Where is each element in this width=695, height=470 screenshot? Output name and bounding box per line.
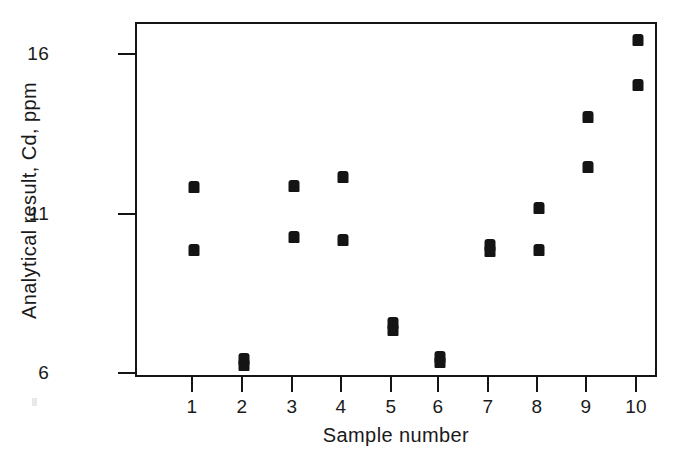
x-tick-label: 7 — [483, 396, 494, 418]
x-tick-mark — [437, 377, 439, 392]
scatter-plot-figure: Analytical result, Cd, ppm 16116 1234567… — [0, 0, 695, 470]
x-tick-mark — [585, 377, 587, 392]
x-axis-title-text: Sample number — [323, 424, 469, 446]
x-tick-label: 1 — [187, 396, 198, 418]
x-tick-mark — [191, 377, 193, 392]
x-tick-mark — [291, 377, 293, 392]
x-tick-label: 9 — [581, 396, 592, 418]
x-axis: 12345678910 — [0, 0, 695, 470]
x-tick-label: 2 — [237, 396, 248, 418]
scan-artifact-speck — [32, 398, 37, 406]
x-axis-title: Sample number — [135, 424, 657, 447]
x-tick-mark — [536, 377, 538, 392]
x-tick-mark — [241, 377, 243, 392]
x-tick-label: 6 — [433, 396, 444, 418]
x-tick-label: 8 — [532, 396, 543, 418]
x-tick-mark — [635, 377, 637, 392]
x-tick-mark — [340, 377, 342, 392]
x-tick-mark — [390, 377, 392, 392]
x-tick-label: 5 — [386, 396, 397, 418]
x-tick-label: 3 — [287, 396, 298, 418]
x-tick-label: 10 — [625, 396, 647, 418]
x-tick-label: 4 — [336, 396, 347, 418]
x-tick-mark — [487, 377, 489, 392]
